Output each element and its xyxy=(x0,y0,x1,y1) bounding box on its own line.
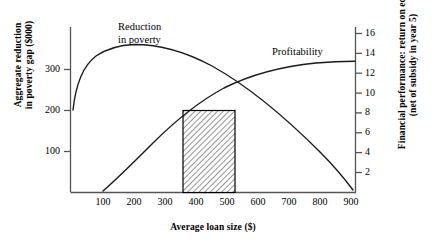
right-tick-16: 16 xyxy=(365,27,387,38)
left-axis-title: Aggregate reduction in poverty gap ($000… xyxy=(13,0,39,145)
right-tick-14: 14 xyxy=(365,47,387,58)
right-axis-title-line2: (net of subsidy in year 5) xyxy=(408,0,419,153)
right-tick-6: 6 xyxy=(365,126,387,137)
series-label-reduction-in-poverty-line1: Reduction xyxy=(118,21,161,32)
right-tick-4: 4 xyxy=(365,146,387,157)
right-axis-title: Financial performance: return on equity … xyxy=(397,0,423,153)
chart-figure: 300 200 100 16 14 12 10 8 6 4 2 100 200 … xyxy=(0,0,434,243)
x-tick-800: 800 xyxy=(305,196,335,207)
right-tick-12: 12 xyxy=(365,67,387,78)
series-label-reduction-in-poverty-line2: in poverty xyxy=(118,34,161,45)
left-axis-title-line2: in poverty gap ($000) xyxy=(24,0,35,145)
x-tick-200: 200 xyxy=(119,196,149,207)
right-tick-2: 2 xyxy=(365,166,387,177)
x-tick-600: 600 xyxy=(243,196,273,207)
x-tick-300: 300 xyxy=(150,196,180,207)
left-axis-ticks xyxy=(64,70,71,152)
x-axis-title: Average loan size ($) xyxy=(70,222,356,233)
right-axis-title-line1: Financial performance: return on equity xyxy=(397,0,408,153)
right-tick-8: 8 xyxy=(365,106,387,117)
right-axis-ticks xyxy=(356,34,363,173)
x-tick-700: 700 xyxy=(274,196,304,207)
right-tick-10: 10 xyxy=(365,87,387,98)
x-tick-400: 400 xyxy=(181,196,211,207)
x-tick-100: 100 xyxy=(88,196,118,207)
optimal-loan-size-band xyxy=(183,111,235,193)
left-tick-100: 100 xyxy=(30,145,60,156)
series-label-profitability: Profitability xyxy=(272,46,323,57)
left-axis-title-line1: Aggregate reduction xyxy=(13,0,24,145)
x-tick-500: 500 xyxy=(212,196,242,207)
x-tick-900: 900 xyxy=(336,196,366,207)
